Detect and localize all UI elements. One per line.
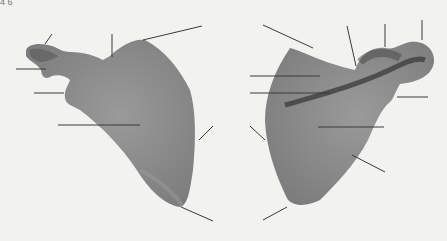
scapula-diagram (0, 0, 447, 241)
scapula-anterior-view (16, 26, 213, 221)
scapula-posterior-view (250, 20, 434, 220)
